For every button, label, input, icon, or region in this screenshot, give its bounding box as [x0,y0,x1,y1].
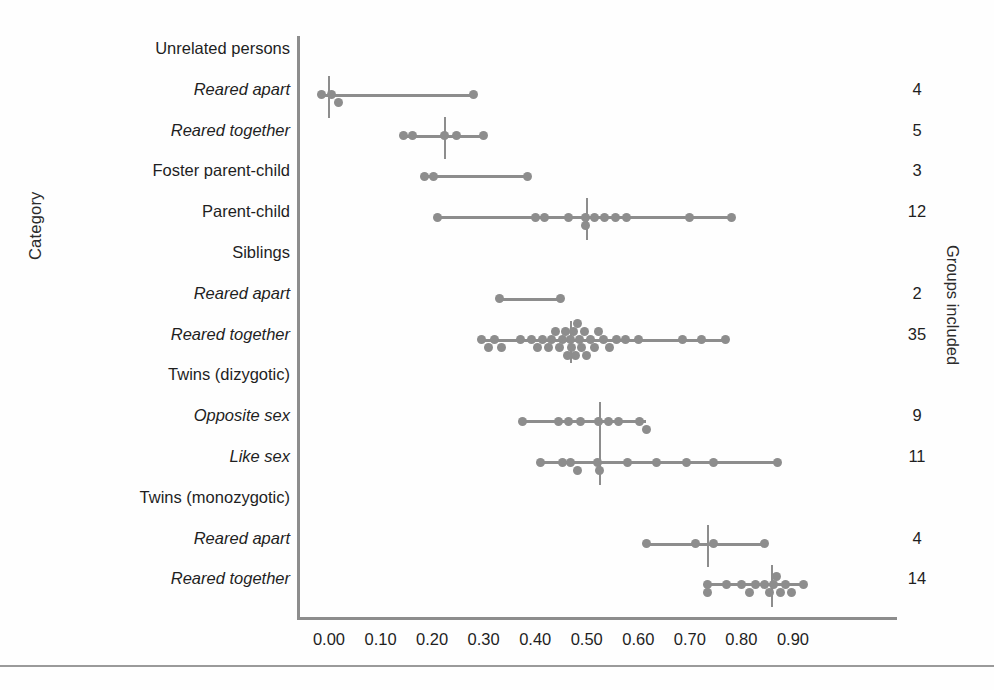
data-point [479,131,488,140]
data-point [408,131,417,140]
data-point [709,458,718,467]
range-line [499,298,561,301]
data-point [573,466,582,475]
bottom-rule [0,665,994,667]
data-point [760,580,769,589]
data-point [685,213,694,222]
groups-included-value: 4 [900,530,934,547]
data-point [569,327,578,336]
data-point [469,90,478,99]
data-point [538,335,547,344]
x-tick-label: 0.10 [364,630,396,649]
category-label: Unrelated persons [60,40,290,57]
data-point [334,98,343,107]
median-tick [444,117,446,159]
data-point [776,588,785,597]
data-point [536,458,545,467]
data-point [634,335,643,344]
data-point [642,425,651,434]
data-point [781,580,790,589]
category-label: Opposite sex [60,407,290,424]
data-point [516,335,525,344]
data-point [635,417,644,426]
groups-included-value: 35 [900,326,934,343]
data-point [440,131,449,140]
category-label: Twins (dizygotic) [60,366,290,383]
category-label: Parent-child [60,203,290,220]
data-point [452,131,461,140]
data-point [593,458,602,467]
groups-included-value: 14 [900,570,934,587]
category-label: Reared apart [60,81,290,98]
data-point [604,417,613,426]
data-point [611,213,620,222]
x-tick-label: 0.20 [416,630,448,649]
data-point [571,351,580,360]
data-point [582,351,591,360]
x-tick-label: 0.00 [313,630,345,649]
data-point [722,580,731,589]
x-tick-label: 0.50 [571,630,603,649]
data-point [554,417,563,426]
data-point [518,417,527,426]
data-point [787,588,796,597]
data-point [594,327,603,336]
x-tick-label: 0.90 [777,630,809,649]
data-point [563,351,572,360]
data-point [727,213,736,222]
median-tick [707,525,709,567]
data-point [327,90,336,99]
data-point [558,335,567,344]
range-line [424,175,527,178]
range-line [321,94,473,97]
median-tick [570,321,572,363]
x-tick-label: 0.70 [674,630,706,649]
range-line [540,461,777,464]
median-tick [586,198,588,240]
data-point [547,335,556,344]
data-point [317,90,326,99]
data-point [564,213,573,222]
category-label-column: Unrelated personsReared apartReared toge… [60,0,290,690]
groups-included-value: 3 [900,162,934,179]
data-point [533,343,542,352]
data-point [564,417,573,426]
data-point [551,327,560,336]
range-line [522,420,646,423]
data-point [484,343,493,352]
groups-included-value: 11 [900,448,934,465]
data-point [745,588,754,597]
data-point [477,335,486,344]
data-point [586,335,595,344]
data-point [580,327,589,336]
x-tick-label: 0.60 [622,630,654,649]
data-point [614,417,623,426]
data-point [590,343,599,352]
data-point [576,417,585,426]
data-point [399,131,408,140]
data-point [420,172,429,181]
data-point [799,580,808,589]
y-axis-line [297,36,300,620]
data-point [495,294,504,303]
category-label: Siblings [60,244,290,261]
category-label: Reared together [60,326,290,343]
data-point [599,335,608,344]
data-point [581,221,590,230]
data-point [600,213,609,222]
data-point [527,335,536,344]
data-point [577,343,586,352]
data-point [623,458,632,467]
data-point [590,213,599,222]
category-label: Foster parent-child [60,162,290,179]
data-point [429,172,438,181]
data-point [642,539,651,548]
category-label: Reared together [60,570,290,587]
range-line [481,339,726,342]
category-label: Reared apart [60,530,290,547]
data-point [691,539,700,548]
data-point [772,572,781,581]
x-tick-label: 0.80 [725,630,757,649]
data-point [709,539,718,548]
data-point [760,539,769,548]
